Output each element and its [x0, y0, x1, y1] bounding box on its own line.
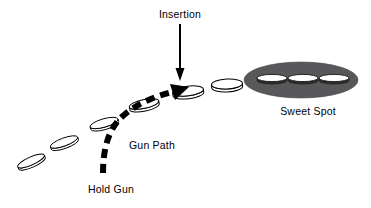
sweet-spot-group	[244, 62, 358, 98]
sweet-spot-disc-left	[257, 74, 287, 84]
diagram-canvas: Insertion Gun Path Hold Gun Sweet Spot	[0, 0, 371, 208]
disc-1	[16, 151, 47, 172]
label-gun-path: Gun Path	[129, 139, 175, 151]
disc-sequence	[16, 78, 243, 173]
disc-6	[211, 78, 243, 93]
sweet-spot-disc-right	[319, 74, 349, 84]
label-sweet-spot: Sweet Spot	[280, 105, 336, 117]
disc-2	[49, 133, 80, 153]
label-insertion: Insertion	[159, 8, 201, 20]
label-hold-gun: Hold Gun	[88, 183, 134, 195]
gun-path-diagram: Insertion Gun Path Hold Gun Sweet Spot	[0, 0, 371, 208]
insertion-arrow	[176, 24, 185, 81]
gun-path-arrow	[103, 84, 189, 173]
sweet-spot-disc-center	[288, 74, 318, 84]
